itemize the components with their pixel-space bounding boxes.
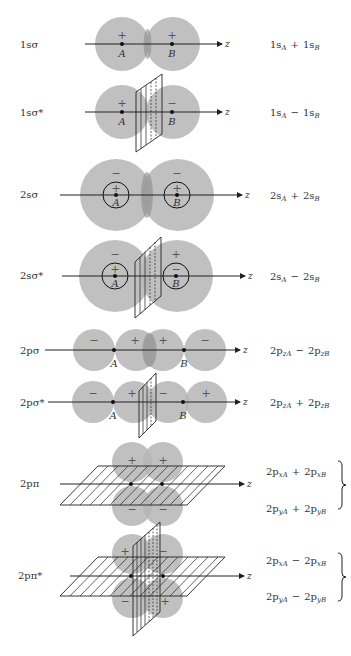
lcao-expression: 2sA+2sB — [270, 190, 320, 203]
lobe-sign: − — [167, 97, 176, 110]
orbital-label: 2sσ — [20, 189, 38, 200]
lobe-sign: + — [130, 334, 139, 347]
row-1s-sigma: 1sσ z + + A B 1sA+1sB — [20, 17, 320, 71]
lobe-sign: + — [120, 545, 129, 558]
row-2p-pi-star: 2pπ* z — [18, 522, 346, 636]
inner-sign: − — [171, 263, 180, 276]
lcao-expression: 2pxA+2pxB — [266, 466, 326, 479]
lcao-expression: 1sA−1sB — [270, 107, 320, 120]
right-brace-icon — [338, 553, 346, 601]
row-2p-pi: 2pπ z + + − − 2pxA+2pxB — [20, 442, 346, 526]
axis-label: z — [224, 39, 230, 49]
lobe-sign: − — [200, 334, 209, 347]
nucleus-a-dot — [129, 482, 133, 486]
outer-sign: − — [110, 248, 119, 261]
row-2s-sigma: 2sσ z − − + + A B 2sA+2sB — [20, 159, 320, 231]
axis-label: z — [244, 190, 250, 200]
nucleus-a-dot — [129, 574, 133, 578]
lobe-sign: + — [127, 454, 136, 467]
orbital-label: 2sσ* — [20, 270, 43, 281]
lobe-sign: − — [120, 595, 129, 608]
lobe-sign: − — [88, 387, 97, 400]
nucleus-label: A — [109, 358, 117, 369]
lcao-expression: 2pxA−2pxB — [266, 555, 326, 568]
inner-sign: + — [111, 182, 120, 195]
lcao-expression: 2pyA−2pyB — [266, 591, 326, 604]
nucleus-b-dot — [170, 110, 174, 114]
nucleus-a-dot — [120, 42, 124, 46]
lobe-sign: + — [167, 29, 176, 42]
axis-label: z — [246, 571, 252, 581]
outer-sign: + — [171, 248, 180, 261]
lobe-sign: + — [158, 334, 167, 347]
nucleus-label: B — [172, 197, 180, 208]
nucleus-label: B — [171, 278, 179, 289]
axis-label: z — [242, 345, 248, 355]
lobe-sign: − — [158, 503, 167, 516]
nucleus-label: A — [117, 48, 125, 59]
axis-label: z — [242, 397, 248, 407]
axis-label: z — [247, 271, 253, 281]
lcao-expression: 2pyA+2pyB — [266, 503, 326, 516]
row-2s-sigma-star: 2sσ* z − + + − A B 2sA−2sB — [20, 237, 320, 318]
lcao-expression: 1sA+1sB — [270, 39, 320, 52]
lobe-sign: + — [160, 595, 169, 608]
inner-sign: + — [110, 263, 119, 276]
outer-sign: − — [111, 167, 120, 180]
lobe-sign: − — [89, 334, 98, 347]
lobe-sign: + — [201, 387, 210, 400]
row-2p-sigma-star: 2pσ* z − + − + A B 2pzA+2pzB — [20, 373, 330, 438]
molecular-orbital-diagram: 1sσ z + + A B 1sA+1sB 1sσ* z + − — [0, 0, 351, 656]
lobe-sign: + — [117, 29, 126, 42]
lobe-sign: + — [127, 387, 136, 400]
axis-label: z — [246, 479, 252, 489]
row-2p-sigma: 2pσ z − + + − A B 2pzA−2pzB — [20, 329, 330, 371]
nucleus-b-dot — [181, 400, 185, 404]
lcao-expression: 2pzA+2pzB — [270, 397, 330, 410]
nucleus-label: A — [111, 197, 119, 208]
orbital-label: 2pσ — [20, 345, 40, 356]
lobe-sign: + — [117, 97, 126, 110]
nucleus-label: A — [117, 116, 125, 127]
nucleus-a-dot — [111, 400, 115, 404]
lobe-sign: − — [127, 503, 136, 516]
nucleus-label: A — [110, 278, 118, 289]
nucleus-b-dot — [182, 348, 186, 352]
nucleus-label: B — [167, 116, 175, 127]
orbital-label: 1sσ* — [20, 107, 43, 118]
axis-label: z — [224, 107, 230, 117]
lobe-sign: − — [158, 387, 167, 400]
nucleus-label: B — [178, 410, 186, 421]
nucleus-b-dot — [160, 482, 164, 486]
orbital-label: 2pσ* — [20, 397, 45, 408]
outer-sign: − — [172, 167, 181, 180]
lcao-expression: 2pzA−2pzB — [270, 345, 330, 358]
lobe-sign: + — [158, 454, 167, 467]
inner-sign: + — [172, 182, 181, 195]
nucleus-label: B — [179, 358, 187, 369]
right-brace-icon — [338, 461, 346, 509]
orbital-label: 2pπ* — [18, 570, 42, 581]
nucleus-label: A — [108, 410, 116, 421]
nucleus-label: B — [167, 48, 175, 59]
orbital-label: 2pπ — [20, 478, 40, 489]
orbital-label: 1sσ — [20, 39, 38, 50]
nucleus-a-dot — [120, 110, 124, 114]
nucleus-b-dot — [170, 42, 174, 46]
lcao-expression: 2sA−2sB — [270, 271, 320, 284]
lobe-sign: − — [158, 545, 167, 558]
nucleus-a-dot — [112, 348, 116, 352]
nucleus-b-dot — [161, 574, 165, 578]
row-1s-sigma-star: 1sσ* z + − A B 1sA−1sB — [20, 74, 320, 152]
